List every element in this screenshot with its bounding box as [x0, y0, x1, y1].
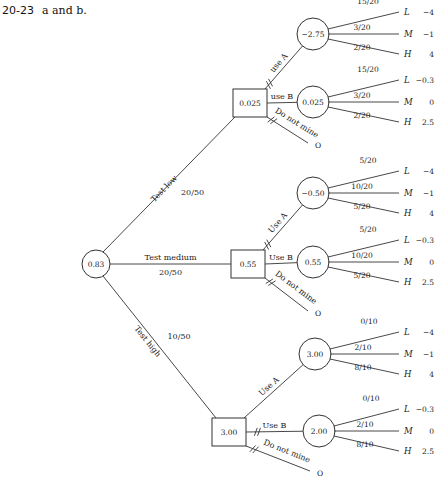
pruned-branch-marker [265, 242, 269, 250]
outcome-probability: 10/20 [351, 182, 373, 191]
do-not-mine-payoff: O [317, 469, 323, 478]
outcome-state: H [403, 117, 412, 127]
chance-expected-value: 2.00 [311, 427, 328, 436]
outcome-payoff: −0.3 [416, 76, 434, 85]
outcome-state: H [403, 208, 412, 218]
option-label: Use B [269, 253, 293, 262]
outcome-probability: 3/20 [354, 23, 371, 32]
option-label: Do not mine [262, 438, 312, 465]
outcome-payoff: −1 [423, 350, 434, 359]
outcome-probability: 5/20 [354, 202, 371, 211]
test-label: Test low [149, 174, 179, 204]
pruned-branch-marker [269, 79, 273, 87]
outcome-state: L [403, 166, 410, 176]
option-branch [246, 431, 303, 432]
outcome-payoff: 0 [429, 98, 434, 107]
outcome-probability: 8/10 [357, 440, 374, 449]
outcome-state: M [403, 97, 413, 107]
outcome-state: H [403, 277, 412, 287]
option-branch [267, 102, 297, 103]
test-label: Test medium [144, 253, 196, 262]
option-label: use B [271, 92, 294, 101]
chance-expected-value: 0.025 [302, 98, 324, 107]
outcome-probability: 2/10 [355, 343, 372, 352]
decision-value: 0.55 [240, 260, 257, 269]
chance-expected-value: 0.55 [305, 258, 322, 267]
option-branch [244, 365, 303, 418]
outcome-probability: 0/10 [363, 394, 380, 403]
pruned-branch-marker [266, 81, 270, 89]
outcome-probability: 5/20 [354, 271, 371, 280]
outcome-state: M [403, 257, 413, 267]
outcome-probability: 3/20 [354, 91, 371, 100]
outcome-probability: 5/20 [360, 156, 377, 165]
outcome-state: L [403, 327, 410, 337]
do-not-mine-payoff: O [315, 309, 321, 318]
chance-expected-value: −0.50 [302, 189, 325, 198]
outcome-probability: 5/20 [360, 225, 377, 234]
root-expected-value: 0.83 [88, 260, 105, 269]
outcome-payoff: −4 [423, 328, 434, 337]
outcome-state: L [403, 235, 410, 245]
outcome-probability: 8/10 [355, 363, 372, 372]
option-label: use A [268, 51, 290, 74]
do-not-mine-payoff: O [315, 141, 321, 150]
option-label: Use B [262, 421, 286, 430]
test-branch [103, 276, 216, 418]
outcome-payoff: 0 [429, 427, 434, 436]
outcome-payoff: −0.3 [416, 236, 434, 245]
outcome-probability: 15/20 [357, 0, 379, 6]
test-probability: 20/50 [159, 268, 182, 277]
test-label: Test high [132, 324, 162, 359]
outcome-payoff: 0 [429, 258, 434, 267]
decision-value: 0.025 [239, 99, 261, 108]
outcome-probability: 15/20 [357, 65, 379, 74]
outcome-state: H [403, 446, 412, 456]
outcome-probability: 2/20 [354, 111, 371, 120]
outcome-payoff: 4 [429, 209, 434, 218]
option-label: Use A [257, 375, 281, 398]
option-label: Use A [267, 211, 290, 235]
outcome-payoff: −4 [423, 167, 434, 176]
pruned-branch-marker [267, 240, 271, 248]
outcome-state: L [403, 75, 410, 85]
outcome-payoff: −1 [423, 30, 434, 39]
outcome-state: L [403, 7, 410, 17]
outcome-payoff: 4 [429, 50, 434, 59]
outcome-state: H [403, 49, 412, 59]
outcome-state: M [403, 349, 413, 359]
outcome-payoff: 4 [429, 370, 434, 379]
chance-expected-value: 3.00 [307, 350, 324, 359]
test-probability: 20/50 [181, 188, 204, 197]
outcome-probability: 0/10 [361, 317, 378, 326]
outcome-probability: 2/20 [354, 43, 371, 52]
outcome-state: H [403, 369, 412, 379]
outcome-state: L [403, 404, 410, 414]
outcome-payoff: 2.5 [422, 278, 434, 287]
outcome-state: M [403, 188, 413, 198]
test-probability: 10/50 [168, 332, 191, 341]
outcome-payoff: −0.3 [416, 405, 434, 414]
outcome-payoff: −1 [423, 189, 434, 198]
outcome-state: M [403, 426, 413, 436]
outcome-payoff: 2.5 [422, 447, 434, 456]
chance-expected-value: −2.75 [302, 30, 325, 39]
outcome-payoff: 2.5 [422, 118, 434, 127]
option-branch [265, 263, 297, 264]
outcome-probability: 2/10 [357, 420, 374, 429]
outcome-payoff: −4 [423, 8, 434, 17]
outcome-probability: 10/20 [351, 251, 373, 260]
decision-tree: 0.83Test low20/500.025use A−2.7515/20L−4… [0, 0, 436, 479]
outcome-state: M [403, 29, 413, 39]
decision-value: 3.00 [221, 428, 238, 437]
